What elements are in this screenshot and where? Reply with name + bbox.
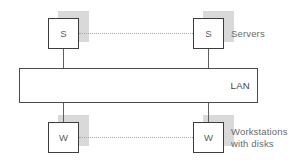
lan-bus-label: LAN <box>231 81 250 91</box>
workstation-left-bus-connector <box>63 102 64 124</box>
node-workstation-right[interactable]: W <box>193 122 224 153</box>
workstation-peer-link <box>79 137 193 138</box>
node-server-left[interactable]: S <box>48 18 79 49</box>
workstations-caption: Workstations with disks <box>231 126 288 149</box>
node-server-left-label: S <box>49 29 78 39</box>
node-workstation-left-label: W <box>49 133 78 143</box>
workstation-right-bus-connector <box>208 102 209 124</box>
node-workstation-left[interactable]: W <box>48 122 79 153</box>
node-workstation-right-label: W <box>194 133 223 143</box>
servers-caption: Servers <box>231 28 265 40</box>
server-right-bus-connector <box>208 47 209 69</box>
lan-bus: LAN <box>19 68 258 103</box>
server-peer-link <box>79 33 193 34</box>
server-left-bus-connector <box>63 47 64 69</box>
node-server-right-label: S <box>194 29 223 39</box>
network-diagram: LAN S S W W Servers Workstations with di… <box>0 0 303 167</box>
node-server-right[interactable]: S <box>193 18 224 49</box>
